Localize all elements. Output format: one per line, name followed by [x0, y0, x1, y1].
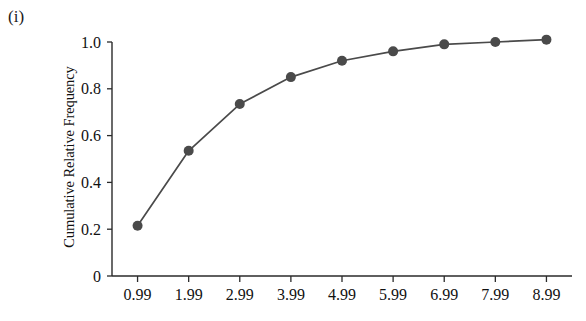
data-point-marker — [388, 46, 398, 56]
y-tick-label: 1.0 — [81, 34, 101, 51]
data-point-marker — [337, 56, 347, 66]
x-tick-label: 5.99 — [379, 286, 407, 303]
series-markers — [133, 35, 552, 231]
data-point-marker — [490, 37, 500, 47]
line-chart-plot: 00.20.40.60.81.0 0.991.992.993.994.995.9… — [0, 0, 586, 321]
x-tick-label: 8.99 — [532, 286, 560, 303]
y-tick-label: 0.2 — [81, 221, 101, 238]
x-tick-label: 6.99 — [430, 286, 458, 303]
x-tick-label: 1.99 — [175, 286, 203, 303]
data-point-marker — [184, 146, 194, 156]
x-tick-label: 0.99 — [124, 286, 152, 303]
x-tick-group: 0.991.992.993.994.995.996.997.998.99 — [124, 276, 561, 303]
data-point-marker — [133, 221, 143, 231]
series-line — [138, 40, 547, 226]
data-point-marker — [541, 35, 551, 45]
data-point-marker — [286, 72, 296, 82]
y-tick-label: 0 — [93, 268, 101, 285]
x-tick-label: 3.99 — [277, 286, 305, 303]
y-tick-group: 00.20.40.60.81.0 — [81, 34, 112, 285]
y-tick-label: 0.4 — [81, 174, 101, 191]
x-tick-label: 7.99 — [481, 286, 509, 303]
x-tick-label: 2.99 — [226, 286, 254, 303]
data-point-marker — [235, 99, 245, 109]
y-tick-label: 0.6 — [81, 127, 101, 144]
x-tick-label: 4.99 — [328, 286, 356, 303]
data-series-group — [133, 35, 552, 231]
figure-container: (i) Cumulative Relative Frequency 00.20.… — [0, 0, 586, 321]
axes-group — [112, 42, 572, 276]
y-tick-label: 0.8 — [81, 80, 101, 97]
data-point-marker — [439, 39, 449, 49]
